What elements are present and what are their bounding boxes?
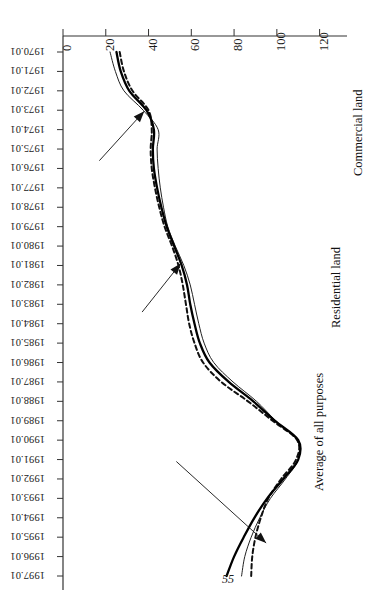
series-lines [110, 52, 301, 576]
x-tick-label: 1976.01 [10, 162, 45, 173]
x-tick-label: 1993.01 [10, 492, 45, 503]
y-tick-label: 80 [231, 39, 246, 52]
average-of-all-purposes-leader [176, 461, 266, 543]
x-tick-label: 1981.01 [10, 259, 45, 270]
x-tick-label: 1984.01 [10, 318, 45, 329]
x-tick-label: 1979.01 [10, 221, 45, 232]
x-tick-label: 1988.01 [10, 395, 45, 406]
y-tick-label: 60 [188, 39, 203, 52]
residential-land-arrowhead [170, 264, 180, 275]
x-tick-label: 1970.01 [10, 46, 45, 57]
x-axis-ticks [57, 52, 63, 576]
x-tick-label: 1995.01 [10, 531, 45, 542]
x-tick-label: 1982.01 [10, 279, 45, 290]
x-tick-label: 1977.01 [10, 182, 45, 193]
annotation-residential-land: Residential land [329, 247, 344, 328]
y-tick-label: 40 [146, 39, 161, 52]
x-tick-label: 1975.01 [10, 143, 45, 154]
x-tick-label: 1992.01 [10, 473, 45, 484]
x-tick-label: 1997.01 [10, 570, 45, 581]
x-tick-label: 1985.01 [10, 337, 45, 348]
x-tick-label: 1996.01 [10, 551, 45, 562]
y-tick-label: 120 [317, 32, 332, 51]
annotation-leader-lines [99, 111, 266, 543]
y-tick-label: 0 [60, 45, 75, 51]
series-line-commercial-land [110, 52, 300, 576]
x-tick-label: 1994.01 [10, 512, 45, 523]
x-tick-label: 1987.01 [10, 376, 45, 387]
y-tick-label: 100 [274, 32, 289, 51]
x-tick-label: 1983.01 [10, 298, 45, 309]
x-tick-label: 1990.01 [10, 434, 45, 445]
x-tick-label: 1978.01 [10, 201, 45, 212]
y-tick-label: 20 [103, 39, 118, 52]
page-number: 55 [222, 572, 234, 587]
x-tick-label: 1989.01 [10, 415, 45, 426]
x-tick-label: 1974.01 [10, 124, 45, 135]
annotation-commercial-land: Commercial land [351, 90, 366, 176]
chart-axes [63, 36, 347, 590]
x-tick-label: 1986.01 [10, 357, 45, 368]
x-tick-label: 1973.01 [10, 104, 45, 115]
x-tick-label: 1971.01 [10, 65, 45, 76]
x-tick-label: 1991.01 [10, 454, 45, 465]
x-tick-label: 1980.01 [10, 240, 45, 251]
annotation-average-of-all-purposes: Average of all purposes [312, 372, 327, 490]
series-line-residential-land [120, 52, 300, 576]
x-tick-label: 1972.01 [10, 85, 45, 96]
series-line-average-of-all-purposes [116, 52, 300, 576]
